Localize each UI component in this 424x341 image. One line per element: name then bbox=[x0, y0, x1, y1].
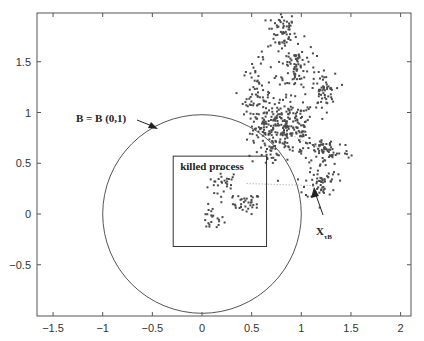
data-point bbox=[265, 123, 267, 125]
data-point bbox=[341, 84, 343, 86]
data-point bbox=[317, 186, 319, 188]
data-point bbox=[272, 127, 274, 129]
data-point bbox=[348, 157, 350, 159]
data-point bbox=[266, 148, 268, 150]
data-point bbox=[243, 201, 245, 203]
data-point bbox=[270, 150, 272, 152]
data-point bbox=[292, 150, 294, 152]
data-point bbox=[237, 195, 239, 197]
data-point bbox=[317, 148, 319, 150]
data-point bbox=[267, 46, 269, 48]
data-point bbox=[292, 107, 294, 109]
data-point bbox=[266, 154, 268, 156]
data-point bbox=[262, 56, 264, 58]
x-tick-label: −0.5 bbox=[141, 322, 163, 334]
data-point bbox=[255, 116, 257, 118]
data-point bbox=[252, 113, 254, 115]
data-point bbox=[328, 173, 330, 175]
data-point bbox=[295, 36, 297, 38]
data-point bbox=[305, 157, 307, 159]
data-point bbox=[316, 83, 318, 85]
data-point bbox=[260, 147, 262, 149]
data-point bbox=[222, 216, 224, 218]
data-point bbox=[234, 204, 236, 206]
data-point bbox=[223, 191, 225, 193]
data-point bbox=[318, 71, 320, 73]
data-point bbox=[246, 211, 248, 213]
data-point bbox=[259, 127, 261, 129]
data-point bbox=[271, 157, 273, 159]
data-point bbox=[294, 95, 296, 97]
data-point bbox=[327, 95, 329, 97]
data-point bbox=[310, 159, 312, 161]
data-point bbox=[303, 76, 305, 78]
data-point bbox=[306, 57, 308, 59]
data-point bbox=[335, 154, 337, 156]
data-point bbox=[263, 129, 265, 131]
data-point bbox=[226, 178, 228, 180]
data-point bbox=[218, 224, 220, 226]
data-point bbox=[279, 113, 281, 115]
data-point bbox=[305, 109, 307, 111]
data-point bbox=[315, 107, 317, 109]
data-point bbox=[283, 42, 285, 44]
data-point bbox=[285, 121, 287, 123]
data-point bbox=[252, 160, 254, 162]
data-point bbox=[295, 113, 297, 115]
data-point bbox=[280, 31, 282, 33]
data-point bbox=[289, 33, 291, 35]
data-point bbox=[316, 55, 318, 57]
data-point bbox=[226, 185, 228, 187]
data-point bbox=[297, 43, 299, 45]
data-point bbox=[269, 102, 271, 104]
data-point bbox=[324, 89, 326, 91]
data-point bbox=[265, 116, 267, 118]
data-point bbox=[318, 180, 320, 182]
data-point bbox=[300, 78, 302, 80]
data-point bbox=[274, 41, 276, 43]
data-point bbox=[316, 178, 318, 180]
data-point bbox=[252, 104, 254, 106]
data-point bbox=[271, 111, 273, 113]
data-point bbox=[318, 95, 320, 97]
data-point bbox=[254, 88, 256, 90]
data-point bbox=[325, 164, 327, 166]
y-tick-label: 1.5 bbox=[16, 56, 31, 68]
data-point bbox=[256, 203, 258, 205]
data-point bbox=[281, 16, 283, 18]
data-point bbox=[310, 167, 312, 169]
data-point bbox=[328, 156, 330, 158]
data-point bbox=[276, 26, 278, 28]
data-point bbox=[287, 126, 289, 128]
data-point bbox=[282, 79, 284, 81]
data-point bbox=[213, 181, 215, 183]
data-point bbox=[300, 124, 302, 126]
data-point bbox=[228, 178, 230, 180]
data-point bbox=[268, 92, 270, 94]
y-tick-label: 0.5 bbox=[16, 157, 31, 169]
data-point bbox=[251, 77, 253, 79]
data-point bbox=[278, 61, 280, 63]
data-point bbox=[208, 224, 210, 226]
data-point bbox=[322, 92, 324, 94]
data-point bbox=[242, 209, 244, 211]
data-point bbox=[308, 161, 310, 163]
data-point bbox=[270, 19, 272, 21]
data-point bbox=[252, 86, 254, 88]
data-point bbox=[213, 192, 215, 194]
data-point bbox=[286, 82, 288, 84]
data-point bbox=[271, 134, 273, 136]
exit-point-subscript: τB bbox=[324, 233, 332, 241]
data-point bbox=[251, 63, 253, 65]
data-point bbox=[307, 119, 309, 121]
data-point bbox=[323, 189, 325, 191]
data-point bbox=[325, 98, 327, 100]
data-point bbox=[280, 124, 282, 126]
data-point bbox=[256, 105, 258, 107]
data-point bbox=[224, 222, 226, 224]
data-point bbox=[302, 70, 304, 72]
data-point bbox=[322, 79, 324, 81]
data-point bbox=[244, 74, 246, 76]
data-point bbox=[322, 191, 324, 193]
data-point bbox=[265, 107, 267, 109]
